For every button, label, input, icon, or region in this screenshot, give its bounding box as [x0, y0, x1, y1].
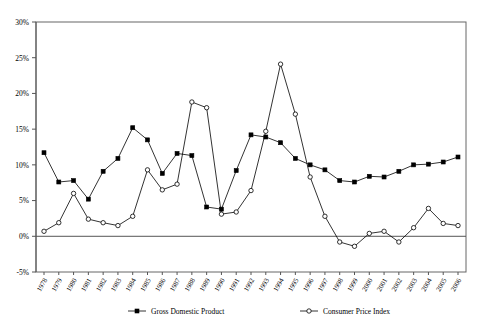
x-axis-tick-label: 1985: [139, 277, 153, 294]
data-point-marker: [101, 169, 105, 173]
x-axis-tick-label: 1986: [154, 277, 168, 294]
x-axis-tick-label: 1980: [65, 277, 79, 294]
y-axis-tick-label: 15%: [15, 125, 29, 134]
data-point-marker: [411, 226, 415, 230]
x-axis-tick-label: 1979: [50, 277, 64, 294]
legend-item-gdp[interactable]: Gross Domestic Product: [128, 307, 225, 316]
x-axis-tick-label: 1992: [242, 277, 256, 294]
data-point-marker: [86, 217, 90, 221]
x-axis-tick-label: 1978: [35, 277, 49, 294]
x-axis-tick-label: 1991: [228, 277, 242, 294]
data-point-marker: [116, 223, 120, 227]
x-axis-tick-label: 1995: [287, 277, 301, 294]
x-axis-tick-label: 2001: [375, 277, 389, 294]
legend-label: Gross Domestic Product: [151, 307, 225, 316]
series-cpi: [42, 62, 460, 249]
data-point-marker: [426, 206, 430, 210]
x-axis-tick-label: 1994: [272, 277, 286, 294]
x-axis-tick-label: 2000: [361, 277, 375, 294]
data-point-marker: [456, 155, 460, 159]
data-point-marker: [278, 62, 282, 66]
data-point-marker: [101, 221, 105, 225]
data-point-marker: [42, 151, 46, 155]
y-axis-tick-label: 10%: [15, 161, 29, 170]
x-axis-tick-label: 1982: [94, 277, 108, 294]
data-point-marker: [249, 133, 253, 137]
data-point-marker: [293, 112, 297, 116]
data-point-marker: [367, 174, 371, 178]
x-axis-tick-label: 2005: [435, 277, 449, 294]
data-point-marker: [204, 106, 208, 110]
data-point-marker: [190, 100, 194, 104]
data-point-marker: [397, 240, 401, 244]
data-point-marker: [190, 154, 194, 158]
data-point-marker: [353, 180, 357, 184]
x-axis-tick-label: 1998: [331, 277, 345, 294]
data-point-marker: [86, 197, 90, 201]
x-axis-tick-label: 1990: [213, 277, 227, 294]
data-point-marker: [160, 171, 164, 175]
x-axis-tick-label: 1997: [316, 277, 330, 294]
data-point-marker: [175, 151, 179, 155]
x-axis-tick-label: 1993: [257, 277, 271, 294]
data-point-marker: [279, 141, 283, 145]
y-axis-tick-label: -5%: [17, 268, 30, 277]
data-point-marker: [160, 188, 164, 192]
data-point-marker: [57, 221, 61, 225]
data-point-marker: [323, 214, 327, 218]
legend-marker-square-icon: [135, 309, 139, 313]
data-point-marker: [131, 214, 135, 218]
data-point-marker: [397, 169, 401, 173]
series-line: [44, 64, 458, 246]
data-point-marker: [293, 156, 297, 160]
data-point-marker: [219, 212, 223, 216]
data-point-marker: [367, 231, 371, 235]
y-axis-tick-label: 0%: [19, 232, 29, 241]
x-axis-tick-label: 1984: [124, 277, 138, 294]
x-axis-tick-label: 1989: [198, 277, 212, 294]
x-axis-tick-label: 1996: [301, 277, 315, 294]
y-axis-tick-label: 5%: [19, 196, 29, 205]
data-point-marker: [205, 205, 209, 209]
x-axis-tick-label: 1999: [346, 277, 360, 294]
x-axis-tick-label: 1988: [183, 277, 197, 294]
legend-item-cpi[interactable]: Consumer Price Index: [300, 307, 390, 316]
series-gdp: [42, 126, 460, 211]
data-point-marker: [338, 240, 342, 244]
series-line: [44, 128, 458, 209]
data-point-marker: [308, 175, 312, 179]
data-point-marker: [426, 162, 430, 166]
x-axis-tick-label: 2004: [420, 277, 434, 294]
line-chart: 30%25%20%15%10%5%0%-5%197819791980198119…: [0, 0, 480, 323]
data-point-marker: [249, 188, 253, 192]
y-axis-tick-label: 30%: [15, 18, 29, 27]
data-point-marker: [412, 163, 416, 167]
x-axis-tick-label: 2002: [390, 277, 404, 294]
data-point-marker: [323, 168, 327, 172]
y-axis-tick-label: 25%: [15, 54, 29, 63]
data-point-marker: [308, 163, 312, 167]
legend-marker-circle-icon: [307, 309, 311, 313]
data-point-marker: [146, 138, 150, 142]
data-point-marker: [234, 210, 238, 214]
chart-container: 30%25%20%15%10%5%0%-5%197819791980198119…: [0, 0, 480, 323]
data-point-marker: [234, 169, 238, 173]
x-axis-tick-label: 1987: [168, 277, 182, 294]
data-point-marker: [441, 221, 445, 225]
data-point-marker: [338, 179, 342, 183]
plot-frame: [36, 22, 466, 272]
x-axis-tick-label: 2006: [449, 277, 463, 294]
x-axis-tick-label: 1981: [80, 277, 94, 294]
data-point-marker: [57, 180, 61, 184]
data-point-marker: [71, 191, 75, 195]
data-point-marker: [145, 168, 149, 172]
data-point-marker: [456, 223, 460, 227]
data-point-marker: [42, 229, 46, 233]
data-point-marker: [382, 229, 386, 233]
data-point-marker: [219, 207, 223, 211]
data-point-marker: [175, 182, 179, 186]
data-point-marker: [382, 175, 386, 179]
data-point-marker: [352, 244, 356, 248]
legend-label: Consumer Price Index: [323, 307, 390, 316]
data-point-marker: [264, 129, 268, 133]
